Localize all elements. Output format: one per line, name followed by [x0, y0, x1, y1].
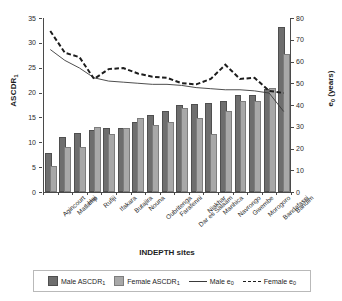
legend-swatch-female-icon [114, 276, 124, 286]
line-female-e0 [50, 31, 283, 93]
y-tick-right [291, 18, 294, 19]
y-tick-right [291, 149, 294, 150]
y-tick-label-left: 20 [0, 89, 36, 96]
y-tick-label-right: 80 [296, 15, 304, 22]
y-tick-right [291, 40, 294, 41]
legend-line-solid-icon [189, 277, 207, 285]
y-tick-right [291, 170, 294, 171]
y-tick-label-left: 5 [0, 164, 36, 171]
legend-label: Female e0 [264, 278, 296, 285]
y-tick-left [39, 93, 42, 94]
y-tick-label-left: 10 [0, 139, 36, 146]
legend-line-dashed-icon [243, 277, 261, 285]
y-tick-label-right: 60 [296, 58, 304, 65]
y-tick-label-right: 70 [296, 36, 304, 43]
y-tick-label-left: 0 [0, 189, 36, 196]
line-series-container [43, 18, 291, 192]
legend-label: Male ASCDR1 [61, 278, 105, 285]
x-axis-category-labels: AgincourtMatlampHaiRufijiIfakaraButajira… [43, 194, 291, 246]
y-tick-label-right: 20 [296, 145, 304, 152]
y-tick-right [291, 83, 294, 84]
legend-item: Female e0 [243, 277, 296, 285]
y-tick-label-left: 25 [0, 64, 36, 71]
x-axis-title: INDEPTH sites [43, 248, 291, 257]
x-category-label: Rufiji [102, 194, 117, 209]
y-tick-label-right: 50 [296, 80, 304, 87]
y-tick-label-right: 10 [296, 167, 304, 174]
line-male-e0 [50, 50, 283, 112]
y-tick-left [39, 167, 42, 168]
y-tick-label-right: 40 [296, 102, 304, 109]
y-tick-right [291, 127, 294, 128]
y-tick-left [39, 142, 42, 143]
y-tick-left [39, 18, 42, 19]
legend-swatch-male-icon [48, 276, 58, 286]
y-tick-label-left: 35 [0, 15, 36, 22]
y-tick-left [39, 68, 42, 69]
x-axis-line [43, 192, 291, 193]
legend-item: Male ASCDR1 [48, 276, 105, 286]
legend-label: Male e0 [210, 278, 234, 285]
y-tick-right [291, 62, 294, 63]
chart-figure: ASCDR1 e0 (years) INDEPTH sites 05101520… [0, 0, 342, 301]
y-tick-left [39, 43, 42, 44]
chart-legend: Male ASCDR1Female ASCDR1Male e0Female e0 [33, 270, 311, 292]
y-tick-label-left: 30 [0, 39, 36, 46]
y-tick-label-right: 30 [296, 123, 304, 130]
y-tick-left [39, 117, 42, 118]
y-tick-label-left: 15 [0, 114, 36, 121]
legend-label: Female ASCDR1 [127, 278, 179, 285]
y-tick-right [291, 105, 294, 106]
x-tick [291, 192, 292, 195]
legend-item: Male e0 [189, 277, 234, 285]
y-tick-left [39, 192, 42, 193]
legend-item: Female ASCDR1 [114, 276, 179, 286]
y-tick-label-right: 0 [296, 189, 300, 196]
y-axis-right-title: e0 (years) [326, 51, 335, 127]
